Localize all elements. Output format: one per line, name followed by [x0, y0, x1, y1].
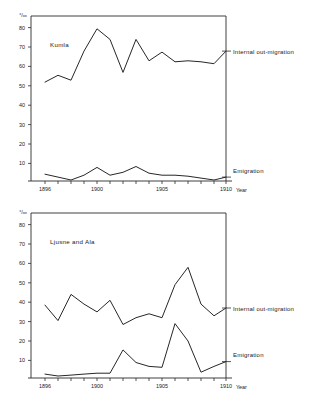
y-tick-label: 50: [19, 280, 25, 286]
chart-svg-kumla: 80 70 60 50 40 30 20 10 °/ₒₒ: [0, 0, 314, 195]
panel-title-kumla: Kumla: [50, 41, 69, 48]
x-tick-label: 1910: [220, 186, 232, 192]
x-tick-label: 1896: [39, 186, 51, 192]
y-tick-label: 60: [19, 260, 25, 266]
x-tick-label: 1900: [91, 186, 103, 192]
y-tick-label: 80: [19, 25, 25, 31]
chart-panel-ljusne-and-ala: 80 70 60 50 40 30 20 10 °/ₒₒ: [0, 197, 314, 392]
y-tick-label: 70: [19, 44, 25, 50]
chart-background-kumla: [0, 0, 314, 195]
y-tick-label: 40: [19, 102, 25, 108]
y-axis-unit-label: °/ₒₒ: [19, 12, 26, 18]
series-label-internal-out-migration: Internal out-migration: [233, 306, 294, 312]
migration-figure: 80 70 60 50 40 30 20 10 °/ₒₒ: [0, 0, 314, 395]
series-label-emigration: Emigration: [233, 352, 264, 358]
chart-svg-ljusne-and-ala: 80 70 60 50 40 30 20 10 °/ₒₒ: [0, 197, 314, 392]
chart-background-ljusne-and-ala: [0, 197, 314, 392]
y-tick-label: 30: [19, 122, 25, 128]
panel-title-ljusne-and-ala: Ljusne and Ala: [50, 238, 95, 245]
y-tick-label: 50: [19, 83, 25, 89]
y-tick-label: 40: [19, 299, 25, 305]
y-tick-label: 10: [19, 357, 25, 363]
y-tick-label: 80: [19, 222, 25, 228]
y-axis-unit-label: °/ₒₒ: [19, 209, 26, 215]
series-label-internal-out-migration: Internal out-migration: [233, 49, 294, 55]
y-tick-label: 20: [19, 141, 25, 147]
x-axis-title: Year: [236, 187, 247, 193]
x-tick-label: 1905: [156, 186, 168, 192]
figure-caption: [6, 385, 308, 395]
y-tick-label: 70: [19, 241, 25, 247]
chart-panel-kumla: 80 70 60 50 40 30 20 10 °/ₒₒ: [0, 0, 314, 195]
y-tick-label: 60: [19, 63, 25, 69]
series-label-emigration: Emigration: [233, 168, 264, 174]
y-tick-label: 20: [19, 338, 25, 344]
y-tick-label: 30: [19, 319, 25, 325]
y-tick-label: 10: [19, 160, 25, 166]
